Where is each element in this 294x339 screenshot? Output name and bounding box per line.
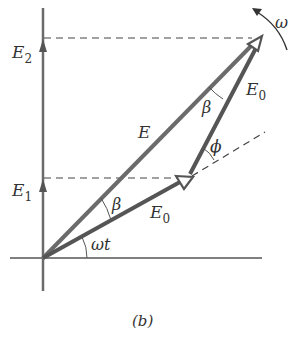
E2-label: E2 [11,42,32,66]
dashed-lines [44,38,265,178]
beta-bottom-arc [101,198,111,220]
beta-top-label: β [201,98,211,117]
figure-caption: (b) [132,312,153,330]
omega-t-label: ωt [91,235,111,254]
omega-t-arc [82,237,87,258]
axes [10,8,262,291]
phasor-diagram: E2 E1 E E0 E0 β β ϕ ωt ω (b) [0,0,294,339]
E0-top-label: E0 [245,79,266,103]
E1-projection-arrowhead [39,179,47,192]
second-E0-phasor [190,48,256,174]
E0-extension-dashed-line [192,132,265,176]
E1-label: E1 [11,180,32,204]
omega-label: ω [275,13,288,32]
labels: E2 E1 E E0 E0 β β ϕ ωt ω (b) [11,13,288,330]
beta-bottom-label: β [111,195,121,214]
phasors [43,36,262,258]
E-label: E [137,122,151,142]
phi-label: ϕ [210,136,222,156]
E0-bottom-label: E0 [149,202,170,226]
E2-projection-arrowhead [39,39,47,52]
